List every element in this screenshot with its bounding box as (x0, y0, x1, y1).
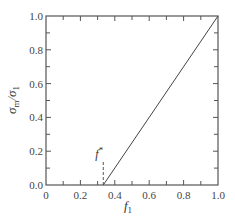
y-tick-label: 0.4 (29, 111, 43, 123)
series-line (103, 16, 218, 185)
y-tick-label: 0.2 (29, 145, 43, 157)
y-tick-label: 0.6 (29, 78, 43, 90)
x-tick-label: 0 (43, 189, 49, 201)
annotations: f* (95, 145, 103, 185)
f-star-label: f* (95, 145, 103, 161)
plot-frame (46, 16, 218, 185)
x-tick-labels: 00.20.40.60.81.0 (43, 189, 225, 201)
y-tick-label: 0.8 (29, 44, 43, 56)
y-tick-label: 1.0 (29, 10, 43, 22)
series (103, 16, 218, 185)
ticks (46, 16, 218, 185)
x-tick-label: 0.8 (177, 189, 191, 201)
x-axis-label: f1 (124, 198, 132, 215)
x-tick-label: 0.6 (142, 189, 156, 201)
x-tick-label: 0.4 (108, 189, 122, 201)
y-tick-label: 0.0 (29, 179, 43, 191)
y-axis-label: σm/σ1 (4, 86, 21, 114)
f-star-superscript: * (99, 145, 104, 155)
x-tick-label: 0.2 (74, 189, 88, 201)
chart: 00.20.40.60.81.0 0.00.20.40.60.81.0 f* f… (0, 0, 235, 222)
y-tick-labels: 0.00.20.40.60.81.0 (29, 10, 43, 191)
x-tick-label: 1.0 (211, 189, 225, 201)
